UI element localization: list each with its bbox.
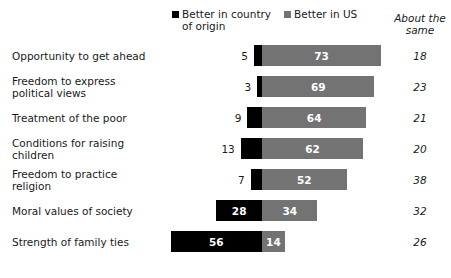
bar-segment-us: 73: [262, 45, 381, 66]
bar-segment-origin: [254, 45, 262, 66]
about-the-same-value: 18: [390, 50, 450, 62]
bar-value-origin: 7: [215, 174, 245, 186]
bar-value-origin: 28: [232, 205, 247, 217]
bar-value-us: 64: [307, 112, 322, 124]
bar-value-origin: 56: [209, 236, 224, 248]
chart-row: Opportunity to get ahead57318: [0, 40, 451, 71]
bar-segment-origin: [251, 169, 262, 190]
bar-segment-us: 14: [262, 231, 285, 252]
bar-value-us: 34: [282, 205, 297, 217]
chart-row: Freedom to express political views36923: [0, 71, 451, 102]
about-the-same-value: 21: [390, 112, 450, 124]
legend-swatch-origin-icon: [172, 11, 179, 18]
about-the-same-value: 23: [390, 81, 450, 93]
bar-value-origin: 3: [221, 81, 251, 93]
about-the-same-value: 32: [390, 205, 450, 217]
category-label: Freedom to practice religion: [12, 167, 172, 192]
bar-value-us: 69: [311, 81, 326, 93]
bar-segment-us: 52: [262, 169, 347, 190]
legend-item-us: Better in US: [284, 8, 357, 20]
bar-segment-us: 62: [262, 138, 363, 159]
legend-item-origin: Better in country of origin: [172, 8, 284, 32]
bar-group: 62: [241, 138, 363, 159]
legend-label-origin: Better in country of origin: [182, 8, 271, 32]
bar-value-origin: 9: [211, 112, 241, 124]
category-label: Conditions for raising children: [12, 136, 172, 161]
legend-label-us: Better in US: [294, 8, 357, 20]
chart-rows: Opportunity to get ahead57318Freedom to …: [0, 40, 451, 257]
chart-row: Freedom to practice religion75238: [0, 164, 451, 195]
bar-group: 73: [254, 45, 381, 66]
bar-value-us: 73: [314, 50, 329, 62]
bar-group: 64: [247, 107, 366, 128]
chart-row: Moral values of society283432: [0, 195, 451, 226]
category-label: Moral values of society: [12, 204, 172, 217]
bar-value-origin: 5: [218, 50, 248, 62]
bar-group: 5614: [171, 231, 285, 252]
chart-legend: Better in country of origin Better in US: [172, 8, 387, 32]
about-the-same-value: 38: [390, 174, 450, 186]
bar-value-us: 14: [266, 236, 281, 248]
about-the-same-value: 20: [390, 143, 450, 155]
bar-segment-origin: 56: [171, 231, 262, 252]
bar-segment-origin: 28: [216, 200, 262, 221]
bar-value-us: 62: [305, 143, 320, 155]
legend-swatch-us-icon: [284, 11, 291, 18]
chart-row: Conditions for raising children136220: [0, 133, 451, 164]
bar-group: 2834: [216, 200, 317, 221]
about-the-same-header: About the same: [390, 12, 450, 36]
bar-segment-origin: [241, 138, 262, 159]
category-label: Freedom to express political views: [12, 74, 172, 99]
category-label: Treatment of the poor: [12, 111, 172, 124]
about-the-same-value: 26: [390, 236, 450, 248]
bar-segment-us: 34: [262, 200, 317, 221]
bar-segment-us: 69: [262, 76, 374, 97]
category-label: Opportunity to get ahead: [12, 49, 172, 62]
bar-value-us: 52: [297, 174, 312, 186]
bar-group: 52: [251, 169, 347, 190]
chart-row: Treatment of the poor96421: [0, 102, 451, 133]
category-label: Strength of family ties: [12, 235, 172, 248]
bar-segment-us: 64: [262, 107, 366, 128]
bar-segment-origin: [247, 107, 262, 128]
chart-container: Better in country of origin Better in US…: [0, 0, 451, 278]
bar-value-origin: 13: [205, 143, 235, 155]
chart-row: Strength of family ties561426: [0, 226, 451, 257]
bar-group: 69: [257, 76, 374, 97]
